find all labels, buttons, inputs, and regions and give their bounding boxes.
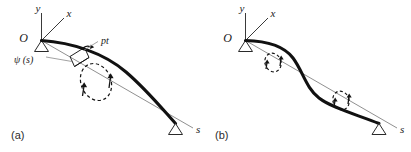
panel-a-angle-wedge <box>70 48 89 67</box>
panel-a-x-axis-label: x <box>66 7 72 19</box>
panel-b-beam-curve <box>246 41 380 124</box>
panel-a-angle-label: ψ (s) <box>14 54 34 66</box>
panel-a-rotation-ellipse <box>75 59 117 105</box>
figure-root: O y x pt ψ (s) s (a) <box>0 0 411 152</box>
panel-b-coordinate-axes <box>246 13 269 41</box>
panel-b-right-support <box>372 124 386 135</box>
panel-a-point-label: pt <box>100 35 109 46</box>
panel-b-arclength-label: s <box>400 123 404 135</box>
panel-a-rotation-indicator <box>75 59 117 105</box>
panel-b: O y x s (b) <box>215 2 404 141</box>
panel-a-coordinate-axes <box>42 13 65 41</box>
panel-b-caption: (b) <box>215 129 228 141</box>
panel-b-arclength-axis <box>246 41 398 129</box>
panel-a-psi-leader <box>46 57 72 62</box>
panel-a-right-support <box>169 124 183 135</box>
panel-a-x-axis <box>42 18 65 41</box>
panel-a-caption: (a) <box>11 129 24 141</box>
panel-b-y-axis-label: y <box>239 2 245 14</box>
panel-a-beam-curve <box>42 41 176 124</box>
panel-a-y-axis-label: y <box>35 2 41 14</box>
panel-b-x-axis <box>246 18 269 41</box>
beam-diagram-svg: O y x pt ψ (s) s (a) <box>0 0 411 152</box>
panel-b-origin-label: O <box>223 31 232 45</box>
panel-a-origin-label: O <box>19 31 28 45</box>
panel-b-x-axis-label: x <box>270 7 276 19</box>
panel-a-arclength-label: s <box>196 123 200 135</box>
panel-a-arclength-axis <box>42 41 194 129</box>
panel-b-rotation-indicator-1 <box>262 51 284 74</box>
panel-a: O y x pt ψ (s) s (a) <box>11 2 200 141</box>
